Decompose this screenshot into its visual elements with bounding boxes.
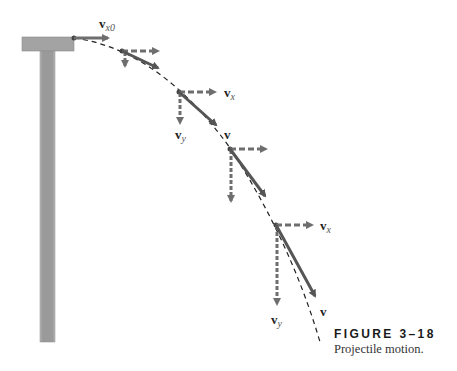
- figure-description: Projectile motion.: [334, 342, 436, 357]
- position-4: [274, 223, 316, 305]
- v-arrow-2: [179, 92, 216, 125]
- label-vy-4: vy: [271, 313, 282, 329]
- table-pillar: [40, 51, 55, 342]
- label-vx-2: vx: [224, 86, 235, 102]
- figure-caption: FIGURE 3–18 Projectile motion.: [334, 327, 436, 357]
- v-arrow-3: [230, 149, 265, 196]
- launch-point: [72, 36, 109, 41]
- label-v-2: v: [224, 128, 231, 141]
- v-arrow-1: [122, 51, 158, 68]
- v-arrow-4: [276, 225, 315, 296]
- position-1: [120, 49, 159, 69]
- position-3: [228, 147, 267, 202]
- table-top: [22, 37, 74, 51]
- trajectory-path: [74, 38, 320, 342]
- projectile-diagram: [0, 0, 457, 371]
- label-vx-4: vx: [320, 219, 331, 235]
- label-vx0: vx0: [99, 17, 115, 33]
- label-v-4: v: [320, 305, 327, 318]
- position-2: [177, 90, 217, 126]
- label-vy-2: vy: [175, 128, 186, 144]
- figure-number: FIGURE 3–18: [334, 327, 436, 341]
